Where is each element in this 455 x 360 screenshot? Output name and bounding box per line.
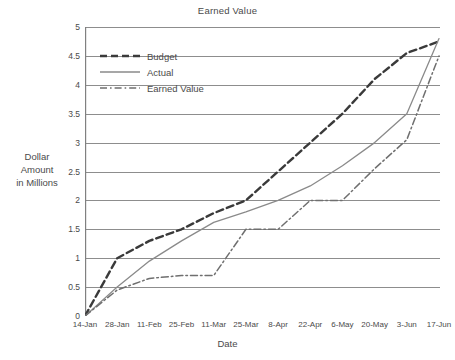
- y-axis-tick-label: 3: [50, 138, 80, 148]
- x-axis-tick-label: 25-Mar: [233, 320, 258, 329]
- x-axis-tick-label: 11-Mar: [201, 320, 226, 329]
- y-axis-tick-label: 4: [50, 80, 80, 90]
- x-axis-tick-label: 3-Jun: [397, 320, 417, 329]
- x-axis-tick-label: 22-Apr: [298, 320, 322, 329]
- x-axis-tick-label: 17-Jun: [427, 320, 451, 329]
- legend-item-earned-value: Earned Value: [100, 80, 204, 96]
- y-axis-tick-labels: 54.543.532.521.510.50: [48, 27, 80, 316]
- y-axis-tick-label: 2.5: [50, 167, 80, 177]
- x-axis-tick-label: 28-Jan: [105, 320, 129, 329]
- chart-container: Earned Value Dollar Amount in Millions 5…: [0, 0, 455, 360]
- y-axis-tick-label: 0.5: [50, 282, 80, 292]
- legend-line-sample: [100, 83, 140, 93]
- legend-label: Budget: [147, 51, 177, 62]
- chart-title: Earned Value: [0, 5, 455, 16]
- legend-item-budget: Budget: [100, 48, 204, 64]
- legend-line-sample: [100, 51, 140, 61]
- x-axis-label: Date: [0, 338, 455, 349]
- y-axis-tick-label: 3.5: [50, 109, 80, 119]
- x-axis-tick-label: 11-Feb: [137, 320, 162, 329]
- y-axis-tick-label: 5: [50, 22, 80, 32]
- y-axis-tick-label: 1: [50, 253, 80, 263]
- legend-label: Earned Value: [147, 83, 204, 94]
- legend-label: Actual: [147, 67, 173, 78]
- x-axis-tick-label: 14-Jan: [73, 320, 97, 329]
- x-axis-tick-labels: 14-Jan28-Jan11-Feb25-Feb11-Mar25-Mar8-Ap…: [85, 320, 440, 334]
- x-axis-tick-label: 8-Apr: [268, 320, 288, 329]
- y-axis-tick-label: 2: [50, 195, 80, 205]
- chart-legend: BudgetActualEarned Value: [100, 48, 204, 96]
- y-axis-tick-label: 1.5: [50, 224, 80, 234]
- x-axis-tick-label: 6-May: [331, 320, 353, 329]
- legend-line-sample: [100, 67, 140, 77]
- legend-item-actual: Actual: [100, 64, 204, 80]
- x-axis-tick-label: 20-May: [361, 320, 388, 329]
- x-axis-tick-label: 25-Feb: [169, 320, 194, 329]
- y-axis-tick-label: 4.5: [50, 51, 80, 61]
